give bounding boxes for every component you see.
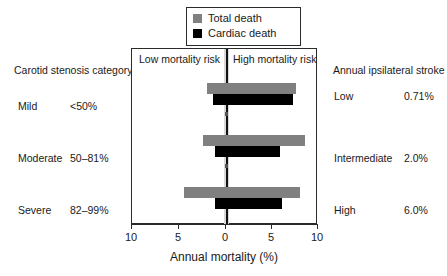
row-value-stroke-intermediate: 2.0% xyxy=(404,152,428,164)
x-axis-tick-label: 10 xyxy=(311,231,323,243)
minor-tick xyxy=(225,112,228,116)
plot-area: Low mortality risk High mortality risk xyxy=(131,48,317,224)
row-value-stroke-low: 0.71% xyxy=(404,90,434,102)
row-label-stroke-risk-intermediate: Intermediate xyxy=(334,152,392,164)
chart-figure: Total death Cardiac death Carotid stenos… xyxy=(0,0,447,276)
x-axis-tick xyxy=(317,224,318,229)
x-axis-title: Annual mortality (%) xyxy=(131,250,317,264)
x-axis-tick-label: 0 xyxy=(222,231,228,243)
chart-legend: Total death Cardiac death xyxy=(186,7,301,46)
bar-total-death-mild xyxy=(207,83,295,94)
row-label-stenosis-mild: <50% xyxy=(70,100,97,112)
left-column-header: Carotid stenosis category xyxy=(14,64,132,76)
bar-total-death-severe xyxy=(184,187,300,198)
x-axis-tick xyxy=(225,224,226,229)
legend-label: Cardiac death xyxy=(208,28,277,39)
minor-tick xyxy=(225,164,228,168)
legend-item-total-death: Total death xyxy=(193,11,294,26)
row-value-stroke-high: 6.0% xyxy=(404,204,428,216)
low-mortality-risk-label: Low mortality risk xyxy=(139,53,220,65)
x-axis-tick xyxy=(178,224,179,229)
row-label-category-severe: Severe xyxy=(18,204,51,216)
square-swatch-icon xyxy=(193,14,202,23)
square-swatch-icon xyxy=(193,29,202,38)
bar-cardiac-death-moderate xyxy=(215,146,280,157)
x-axis-tick-label: 5 xyxy=(268,231,274,243)
bar-total-death-moderate xyxy=(203,135,305,146)
high-mortality-risk-label: High mortality risk xyxy=(233,53,316,65)
legend-item-cardiac-death: Cardiac death xyxy=(193,26,294,41)
bar-cardiac-death-mild xyxy=(213,94,293,105)
row-label-category-mild: Mild xyxy=(18,100,37,112)
row-label-category-moderate: Moderate xyxy=(18,152,62,164)
row-label-stenosis-moderate: 50–81% xyxy=(70,152,109,164)
x-axis-tick-label: 5 xyxy=(175,231,181,243)
x-axis-tick-label: 10 xyxy=(125,231,137,243)
row-label-stroke-risk-low: Low xyxy=(334,90,353,102)
x-axis-line xyxy=(131,224,317,225)
bar-cardiac-death-severe xyxy=(215,198,282,209)
x-axis-tick xyxy=(131,224,132,229)
row-label-stenosis-severe: 82–99% xyxy=(70,204,109,216)
right-column-header: Annual ipsilateral stroke xyxy=(333,64,444,76)
x-axis-tick xyxy=(271,224,272,229)
row-label-stroke-risk-high: High xyxy=(334,204,356,216)
legend-label: Total death xyxy=(208,13,262,24)
